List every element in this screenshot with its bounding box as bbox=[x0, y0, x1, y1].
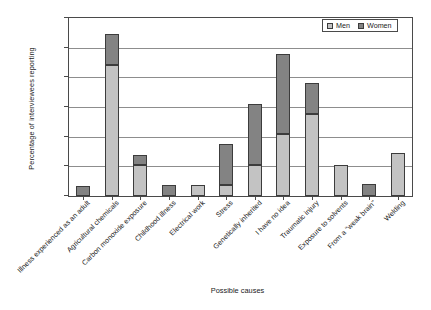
y-tick-mark bbox=[64, 17, 68, 18]
stacked-bar[interactable] bbox=[133, 155, 147, 196]
y-tick-mark bbox=[64, 47, 68, 48]
bar-slot bbox=[241, 18, 270, 196]
stacked-bar[interactable] bbox=[362, 184, 376, 196]
bar-segment-women[interactable] bbox=[76, 186, 90, 196]
legend-label-men: Men bbox=[336, 22, 350, 29]
bar-segment-women[interactable] bbox=[305, 83, 319, 114]
bar-slot bbox=[326, 18, 355, 196]
bar-segment-women[interactable] bbox=[105, 34, 119, 65]
legend-swatch-men-icon bbox=[327, 23, 333, 29]
bar-slot bbox=[298, 18, 327, 196]
legend-item-women: Women bbox=[358, 22, 392, 29]
legend-label-women: Women bbox=[367, 22, 392, 29]
y-tick-mark bbox=[64, 106, 68, 107]
y-axis-title: Percentage of interviewees reporting bbox=[27, 14, 36, 204]
bar-slot bbox=[183, 18, 212, 196]
bar-segment-men[interactable] bbox=[191, 185, 205, 196]
stacked-bar[interactable] bbox=[76, 186, 90, 196]
x-tick-label: From a "weak brain" bbox=[326, 199, 377, 250]
chart-container: Percentage of interviewees reporting 051… bbox=[0, 0, 431, 310]
bar-slot bbox=[355, 18, 384, 196]
x-axis-labels: Illness experienced as an adultAgricultu… bbox=[68, 199, 413, 279]
stacked-bar[interactable] bbox=[248, 104, 262, 196]
stacked-bar[interactable] bbox=[219, 144, 233, 196]
bar-segment-women[interactable] bbox=[362, 184, 376, 196]
legend-swatch-women-icon bbox=[358, 23, 364, 29]
y-tick-mark bbox=[64, 195, 68, 196]
bar-segment-men[interactable] bbox=[133, 165, 147, 196]
bar-segment-men[interactable] bbox=[219, 185, 233, 196]
stacked-bar[interactable] bbox=[391, 153, 405, 196]
bar-segment-men[interactable] bbox=[105, 65, 119, 196]
x-axis-title: Possible causes bbox=[0, 286, 431, 295]
bar-segment-women[interactable] bbox=[248, 104, 262, 165]
bar-slot bbox=[98, 18, 127, 196]
bar-slot bbox=[69, 18, 98, 196]
stacked-bar[interactable] bbox=[191, 185, 205, 196]
x-tick-label: Welding bbox=[382, 199, 406, 223]
x-tick-label: Stress bbox=[215, 199, 235, 219]
stacked-bar[interactable] bbox=[305, 83, 319, 196]
bar-segment-men[interactable] bbox=[334, 165, 348, 196]
bar-segment-men[interactable] bbox=[391, 153, 405, 196]
plot-area bbox=[68, 17, 413, 197]
stacked-bar[interactable] bbox=[334, 165, 348, 196]
bar-slot bbox=[269, 18, 298, 196]
bar-segment-men[interactable] bbox=[305, 114, 319, 196]
bar-segment-women[interactable] bbox=[276, 54, 290, 134]
bar-segment-women[interactable] bbox=[133, 155, 147, 165]
x-tick-label: Agricultural chemicals bbox=[65, 199, 120, 254]
stacked-bar[interactable] bbox=[162, 185, 176, 196]
bar-segment-women[interactable] bbox=[162, 185, 176, 196]
bar-slot bbox=[155, 18, 184, 196]
stacked-bar[interactable] bbox=[105, 34, 119, 196]
y-tick-mark bbox=[64, 136, 68, 137]
x-tick-label: Exposure to solvents bbox=[296, 199, 349, 252]
bar-segment-women[interactable] bbox=[219, 144, 233, 185]
bar-group bbox=[69, 18, 412, 196]
y-tick-mark bbox=[64, 165, 68, 166]
bar-segment-men[interactable] bbox=[276, 134, 290, 196]
bar-slot bbox=[126, 18, 155, 196]
legend: Men Women bbox=[322, 19, 398, 32]
bar-slot bbox=[383, 18, 412, 196]
bar-segment-men[interactable] bbox=[248, 165, 262, 196]
stacked-bar[interactable] bbox=[276, 54, 290, 196]
y-tick-mark bbox=[64, 76, 68, 77]
bar-slot bbox=[212, 18, 241, 196]
legend-item-men: Men bbox=[327, 22, 350, 29]
